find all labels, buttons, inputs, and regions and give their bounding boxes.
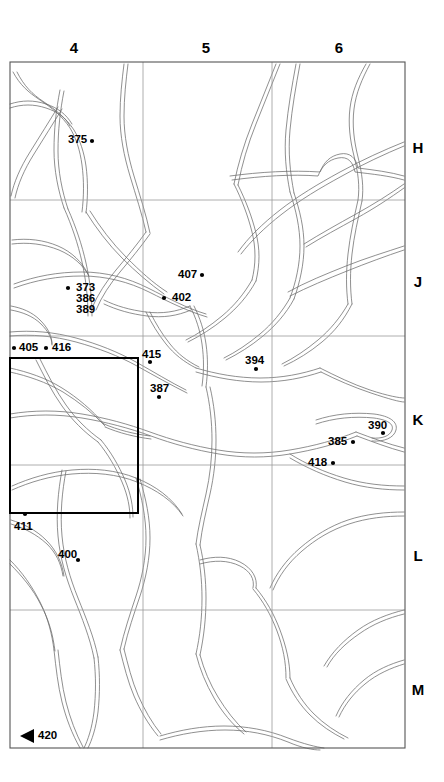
- site-label-390: 390: [368, 419, 387, 432]
- site-dot-418: [331, 461, 335, 465]
- site-dot-373: [66, 286, 70, 290]
- grid-row-label-h: H: [408, 140, 428, 155]
- site-dot-416: [44, 346, 48, 350]
- site-label-387: 387: [150, 382, 169, 395]
- site-label-400: 400: [58, 548, 77, 561]
- site-dot-394: [254, 367, 258, 371]
- site-dot-411: [23, 512, 27, 516]
- grid-lines: [10, 62, 405, 748]
- road-network: [10, 64, 404, 750]
- site-label-385: 385: [328, 435, 347, 448]
- site-label-411: 411: [14, 520, 33, 533]
- site-label-394: 394: [245, 354, 264, 367]
- site-label-416: 416: [52, 341, 71, 354]
- grid-row-label-j: J: [408, 274, 428, 289]
- site-label-418: 418: [308, 456, 327, 469]
- grid-row-label-k: K: [408, 412, 428, 427]
- grid-column-label-6: 6: [327, 40, 351, 55]
- site-label-389: 389: [76, 303, 95, 316]
- map-drawing: [0, 0, 444, 782]
- site-dot-385: [351, 440, 355, 444]
- detail-area-rectangle: [10, 358, 138, 513]
- site-label-402: 402: [172, 291, 191, 304]
- direction-arrow-icon: [20, 729, 34, 743]
- site-label-375: 375: [68, 133, 87, 146]
- grid-column-label-4: 4: [62, 40, 86, 55]
- site-label-405: 405: [19, 341, 38, 354]
- site-label-415: 415: [142, 348, 161, 361]
- site-dot-375: [90, 139, 94, 143]
- site-dot-407: [200, 273, 204, 277]
- site-dot-405: [12, 346, 16, 350]
- site-dot-402: [162, 296, 166, 300]
- site-label-420: 420: [38, 729, 57, 742]
- grid-row-label-l: L: [408, 548, 428, 563]
- map-frame: [10, 62, 405, 748]
- site-dot-387: [157, 395, 161, 399]
- site-label-407: 407: [178, 268, 197, 281]
- map-figure: 4 5 6 H J K L M 375 373 386 389 407 402 …: [0, 0, 444, 782]
- grid-column-label-5: 5: [194, 40, 218, 55]
- grid-row-label-m: M: [408, 682, 428, 697]
- map-frame-rect: [10, 62, 405, 748]
